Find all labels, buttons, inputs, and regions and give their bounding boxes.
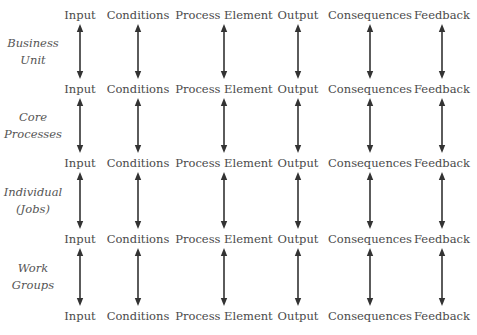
column-label-process-element: Process Element: [175, 309, 272, 323]
column-label-input: Input: [64, 156, 95, 170]
level-label-line2: Groups: [0, 277, 73, 294]
column-label-output: Output: [278, 8, 319, 22]
column-label-process-element: Process Element: [175, 156, 272, 170]
double-arrow-icon: [365, 98, 375, 153]
double-arrow-icon: [133, 98, 143, 153]
column-label-feedback: Feedback: [414, 8, 470, 22]
level-label-line1: Individual: [0, 184, 73, 201]
double-arrow-icon: [219, 98, 229, 153]
double-arrow-icon: [365, 172, 375, 229]
column-label-consequences: Consequences: [328, 156, 412, 170]
column-label-process-element: Process Element: [175, 82, 272, 96]
column-label-feedback: Feedback: [414, 156, 470, 170]
column-label-input: Input: [64, 8, 95, 22]
double-arrow-icon: [437, 172, 447, 229]
column-label-output: Output: [278, 156, 319, 170]
column-label-consequences: Consequences: [328, 232, 412, 246]
double-arrow-icon: [75, 98, 85, 153]
double-arrow-icon: [293, 24, 303, 79]
column-label-feedback: Feedback: [414, 82, 470, 96]
level-label-business: BusinessUnit: [0, 35, 73, 69]
double-arrow-icon: [219, 24, 229, 79]
level-label-line1: Core: [0, 109, 73, 126]
column-label-feedback: Feedback: [414, 309, 470, 323]
double-arrow-icon: [437, 98, 447, 153]
column-label-conditions: Conditions: [107, 309, 170, 323]
double-arrow-icon: [365, 24, 375, 79]
level-label-line2: Processes: [0, 126, 73, 143]
column-label-consequences: Consequences: [328, 309, 412, 323]
column-label-output: Output: [278, 309, 319, 323]
column-label-feedback: Feedback: [414, 232, 470, 246]
double-arrow-icon: [293, 98, 303, 153]
column-label-output: Output: [278, 82, 319, 96]
double-arrow-icon: [293, 172, 303, 229]
column-label-input: Input: [64, 309, 95, 323]
level-label-work: WorkGroups: [0, 260, 73, 294]
column-label-output: Output: [278, 232, 319, 246]
double-arrow-icon: [133, 24, 143, 79]
double-arrow-icon: [219, 172, 229, 229]
level-label-line1: Work: [0, 260, 73, 277]
double-arrow-icon: [437, 248, 447, 306]
double-arrow-icon: [75, 248, 85, 306]
column-label-conditions: Conditions: [107, 232, 170, 246]
double-arrow-icon: [293, 248, 303, 306]
level-label-line2: Unit: [0, 52, 73, 69]
double-arrow-icon: [437, 24, 447, 79]
double-arrow-icon: [219, 248, 229, 306]
column-label-conditions: Conditions: [107, 156, 170, 170]
double-arrow-icon: [133, 248, 143, 306]
level-label-individual: Individual(Jobs): [0, 184, 73, 218]
double-arrow-icon: [75, 172, 85, 229]
column-label-input: Input: [64, 82, 95, 96]
column-label-process-element: Process Element: [175, 8, 272, 22]
level-label-line1: Business: [0, 35, 73, 52]
double-arrow-icon: [75, 24, 85, 79]
column-label-process-element: Process Element: [175, 232, 272, 246]
level-label-core: CoreProcesses: [0, 109, 73, 143]
double-arrow-icon: [133, 172, 143, 229]
column-label-conditions: Conditions: [107, 82, 170, 96]
column-label-conditions: Conditions: [107, 8, 170, 22]
double-arrow-icon: [365, 248, 375, 306]
column-label-consequences: Consequences: [328, 8, 412, 22]
level-label-line2: (Jobs): [0, 201, 73, 218]
column-label-input: Input: [64, 232, 95, 246]
column-label-consequences: Consequences: [328, 82, 412, 96]
